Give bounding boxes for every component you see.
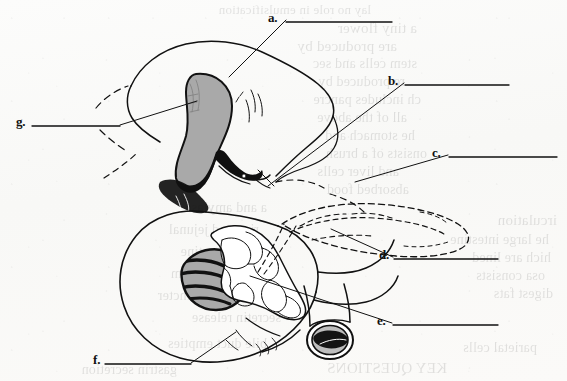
label-d: d. xyxy=(379,248,389,261)
label-a: a. xyxy=(268,11,277,24)
label-b: b. xyxy=(388,74,398,87)
label-c: c. xyxy=(432,146,441,159)
label-e: e. xyxy=(377,314,386,327)
scanned-figure-page: lay no role in emulsificationa tiny flow… xyxy=(0,0,567,381)
label-f: f. xyxy=(93,353,100,366)
label-g: g. xyxy=(16,115,25,128)
anatomy-figure-illustration xyxy=(0,0,567,381)
